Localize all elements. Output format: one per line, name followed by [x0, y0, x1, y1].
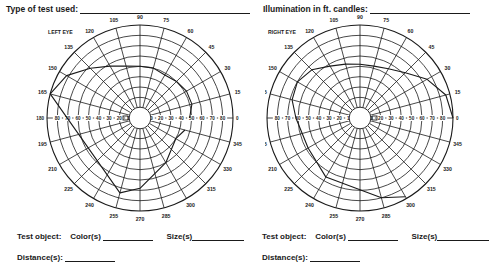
meridian-label-105: 105 — [330, 17, 339, 23]
axis-label-right: 70 — [210, 116, 216, 121]
meridian-315 — [148, 126, 206, 184]
axis-label-right: 40 — [179, 116, 185, 121]
axis-label-left: 50 — [306, 116, 312, 121]
axis-label-right: 20 — [158, 116, 164, 121]
meridian-label-75: 75 — [383, 17, 389, 23]
axis-label-right: 80 — [220, 116, 226, 121]
meridian-label-75: 75 — [163, 17, 169, 23]
meridian-label-255: 255 — [330, 213, 339, 219]
test-object-label: Test object: — [17, 232, 61, 241]
right-distance-row: Distance(s): — [262, 253, 360, 262]
test-type-field: Type of test used: — [6, 4, 250, 14]
illumination-input-line[interactable] — [370, 5, 470, 14]
distance-label: Distance(s): — [17, 253, 63, 262]
meridian-150 — [59, 72, 130, 113]
meridian-label-105: 105 — [110, 17, 119, 23]
meridian-label-240: 240 — [85, 202, 94, 208]
right-eye-chart: 1530456075901051201351501651952102252402… — [265, 14, 493, 228]
fixation-center — [349, 107, 371, 129]
meridian-label-15: 15 — [455, 89, 461, 95]
meridian-label-90: 90 — [357, 14, 363, 20]
axis-label-left: 40 — [316, 116, 322, 121]
size-label: Size(s) — [411, 232, 437, 241]
left-color-input-line[interactable] — [103, 232, 153, 241]
axis-label-right: 60 — [199, 116, 205, 121]
meridian-label-225: 225 — [64, 186, 73, 192]
right-distance-input-line[interactable] — [310, 253, 360, 262]
left-distance-row: Distance(s): — [17, 253, 115, 262]
meridian-label-330: 330 — [443, 166, 452, 172]
left-size-input-line[interactable] — [192, 232, 244, 241]
test-object-label: Test object: — [262, 232, 306, 241]
meridian-225 — [74, 126, 132, 184]
meridian-label-135: 135 — [64, 44, 73, 50]
meridian-135 — [294, 52, 352, 110]
meridian-135 — [74, 52, 132, 110]
meridian-label-315: 315 — [427, 186, 436, 192]
test-type-input-line[interactable] — [80, 5, 250, 14]
test-type-label: Type of test used: — [6, 4, 78, 14]
axis-label-right: 80 — [440, 116, 446, 121]
meridian-label-150: 150 — [48, 65, 57, 71]
meridian-label-30: 30 — [225, 65, 231, 71]
axis-label-left: 60 — [75, 116, 81, 121]
left-eye-perimetry-grid: 1530456075901051201351501651952102252402… — [30, 14, 255, 224]
axis-label-right: 70 — [430, 116, 436, 121]
meridian-label-45: 45 — [209, 44, 215, 50]
meridian-330 — [369, 123, 440, 164]
meridian-label-285: 285 — [162, 213, 171, 219]
meridian-240 — [94, 127, 135, 198]
axis-label-left: 20 — [337, 116, 343, 121]
meridian-label-15: 15 — [235, 89, 241, 95]
fixation-center — [129, 107, 151, 129]
meridian-60 — [145, 37, 186, 108]
meridian-label-240: 240 — [305, 202, 314, 208]
meridian-label-210: 210 — [268, 166, 277, 172]
meridian-label-345: 345 — [453, 141, 462, 147]
axis-label-right: 60 — [419, 116, 425, 121]
color-label: Color(s) — [315, 232, 346, 241]
illumination-field: Illumination in ft. candles: — [263, 4, 470, 14]
meridian-label-30: 30 — [445, 65, 451, 71]
meridian-label-330: 330 — [223, 166, 232, 172]
axis-label-right: 0 — [456, 116, 459, 121]
meridian-label-255: 255 — [110, 213, 119, 219]
size-label: Size(s) — [166, 232, 192, 241]
meridian-30 — [149, 72, 220, 113]
axis-label-right: 0 — [236, 116, 239, 121]
meridian-150 — [279, 72, 350, 113]
left-distance-input-line[interactable] — [65, 253, 115, 262]
meridian-315 — [368, 126, 426, 184]
eye-label: LEFT EYE — [48, 29, 73, 35]
meridian-label-270: 270 — [136, 216, 145, 222]
axis-label-left: 180 — [36, 116, 44, 121]
axis-label-right: 30 — [388, 116, 394, 121]
meridian-label-225: 225 — [284, 186, 293, 192]
meridian-45 — [368, 52, 426, 110]
left-eye-chart: 1530456075901051201351501651952102252402… — [30, 14, 255, 228]
meridian-30 — [369, 72, 440, 113]
meridian-label-150: 150 — [268, 65, 277, 71]
meridian-label-60: 60 — [408, 28, 414, 34]
axis-label-left: 80 — [55, 116, 61, 121]
meridian-label-210: 210 — [48, 166, 57, 172]
meridian-label-120: 120 — [305, 28, 314, 34]
meridian-120 — [314, 37, 355, 108]
illumination-label: Illumination in ft. candles: — [263, 4, 368, 14]
color-label: Color(s) — [70, 232, 101, 241]
right-color-input-line[interactable] — [348, 232, 398, 241]
meridian-label-270: 270 — [356, 216, 365, 222]
meridian-330 — [149, 123, 220, 164]
right-size-input-line[interactable] — [437, 232, 489, 241]
meridian-60 — [365, 37, 406, 108]
axis-label-left: 70 — [285, 116, 291, 121]
right-test-object-row: Test object: Color(s) Size(s) — [262, 232, 489, 241]
meridian-label-285: 285 — [382, 213, 391, 219]
meridian-300 — [365, 127, 406, 198]
meridian-label-135: 135 — [284, 44, 293, 50]
axis-label-left: 30 — [106, 116, 112, 121]
axis-label-left: 80 — [275, 116, 281, 121]
axis-label-right: 40 — [399, 116, 405, 121]
meridian-240 — [314, 127, 355, 198]
meridian-label-300: 300 — [406, 202, 415, 208]
